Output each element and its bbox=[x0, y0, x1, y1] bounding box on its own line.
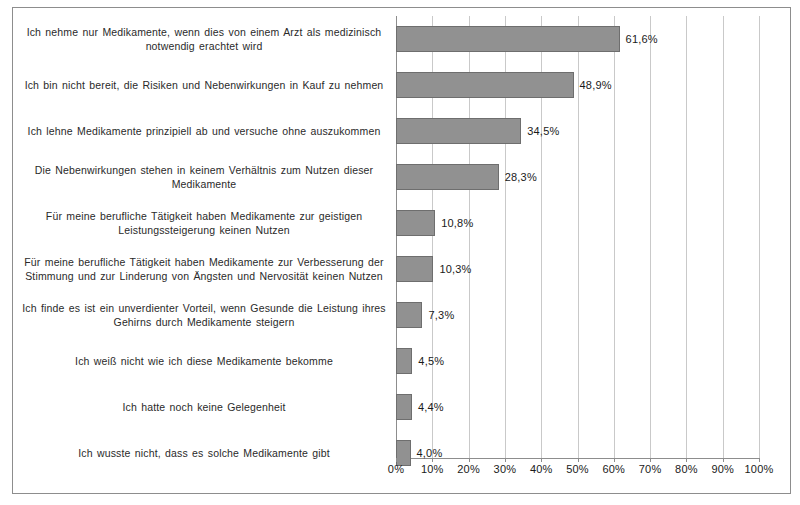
x-tick-label: 40% bbox=[530, 463, 553, 475]
bar-container: 48,9% bbox=[396, 62, 760, 108]
bar-container: 34,5% bbox=[396, 108, 760, 154]
bar bbox=[396, 394, 412, 420]
bar-value-label: 34,5% bbox=[527, 125, 559, 137]
x-tick-mark bbox=[541, 458, 542, 462]
bar-container: 4,5% bbox=[396, 338, 760, 384]
x-tick-label: 90% bbox=[711, 463, 734, 475]
bar-container: 10,3% bbox=[396, 246, 760, 292]
bar-container: 28,3% bbox=[396, 154, 760, 200]
bar-value-label: 10,3% bbox=[439, 263, 471, 275]
x-tick-mark bbox=[686, 458, 687, 462]
category-label: Für meine berufliche Tätigkeit haben Med… bbox=[18, 255, 390, 284]
bar bbox=[396, 26, 620, 52]
bar-value-label: 28,3% bbox=[505, 171, 537, 183]
bar-value-label: 61,6% bbox=[626, 33, 658, 45]
bar-row: Ich finde es ist ein unverdienter Vortei… bbox=[13, 292, 790, 338]
bar-row: Ich weiß nicht wie ich diese Medikamente… bbox=[13, 338, 790, 384]
bar bbox=[396, 256, 433, 282]
x-tick-mark bbox=[505, 458, 506, 462]
x-tick-mark bbox=[723, 458, 724, 462]
category-label: Ich lehne Medikamente prinzipiell ab und… bbox=[18, 124, 390, 139]
bar-container: 10,8% bbox=[396, 200, 760, 246]
x-tick-mark bbox=[469, 458, 470, 462]
bar-rows: Ich nehme nur Medikamente, wenn dies von… bbox=[13, 16, 790, 476]
bar-container: 7,3% bbox=[396, 292, 760, 338]
x-tick-mark bbox=[396, 458, 397, 462]
x-tick-mark bbox=[759, 458, 760, 462]
category-label: Ich bin nicht bereit, die Risiken und Ne… bbox=[18, 78, 390, 93]
bar bbox=[396, 118, 521, 144]
x-tick-mark bbox=[432, 458, 433, 462]
bar bbox=[396, 348, 412, 374]
category-label: Ich nehme nur Medikamente, wenn dies von… bbox=[18, 25, 390, 54]
x-tick-label: 20% bbox=[457, 463, 480, 475]
bar-value-label: 10,8% bbox=[441, 217, 473, 229]
bar-row: Ich nehme nur Medikamente, wenn dies von… bbox=[13, 16, 790, 62]
bar-row: Ich hatte noch keine Gelegenheit4,4% bbox=[13, 384, 790, 430]
x-tick-label: 30% bbox=[494, 463, 517, 475]
x-axis-tick-labels: 0%10%20%30%40%50%60%70%80%90%100% bbox=[13, 463, 790, 483]
category-label: Ich weiß nicht wie ich diese Medikamente… bbox=[18, 354, 390, 369]
bar-value-label: 7,3% bbox=[428, 309, 454, 321]
x-tick-label: 100% bbox=[745, 463, 774, 475]
category-label: Ich hatte noch keine Gelegenheit bbox=[18, 400, 390, 415]
x-tick-label: 10% bbox=[421, 463, 444, 475]
bar-row: Die Nebenwirkungen stehen in keinem Verh… bbox=[13, 154, 790, 200]
bar bbox=[396, 210, 435, 236]
bar-value-label: 4,4% bbox=[418, 401, 444, 413]
x-tick-mark bbox=[614, 458, 615, 462]
bar bbox=[396, 72, 574, 98]
bar-row: Ich bin nicht bereit, die Risiken und Ne… bbox=[13, 62, 790, 108]
bar bbox=[396, 164, 499, 190]
bar bbox=[396, 302, 422, 328]
category-label: Für meine berufliche Tätigkeit haben Med… bbox=[18, 209, 390, 238]
x-tick-mark bbox=[650, 458, 651, 462]
bar-container: 4,4% bbox=[396, 384, 760, 430]
category-label: Die Nebenwirkungen stehen in keinem Verh… bbox=[18, 163, 390, 192]
x-tick-label: 0% bbox=[388, 463, 404, 475]
x-tick-label: 70% bbox=[639, 463, 662, 475]
x-tick-label: 60% bbox=[602, 463, 625, 475]
bar-container: 61,6% bbox=[396, 16, 760, 62]
bar-row: Ich lehne Medikamente prinzipiell ab und… bbox=[13, 108, 790, 154]
x-tick-mark bbox=[578, 458, 579, 462]
chart-frame: Ich nehme nur Medikamente, wenn dies von… bbox=[12, 7, 791, 494]
bar-value-label: 4,5% bbox=[418, 355, 444, 367]
category-label: Ich finde es ist ein unverdienter Vortei… bbox=[18, 301, 390, 330]
bar-value-label: 48,9% bbox=[580, 79, 612, 91]
category-label: Ich wusste nicht, dass es solche Medikam… bbox=[18, 446, 390, 461]
x-tick-label: 50% bbox=[566, 463, 589, 475]
bar-value-label: 4,0% bbox=[417, 447, 443, 459]
bar-row: Für meine berufliche Tätigkeit haben Med… bbox=[13, 246, 790, 292]
x-tick-label: 80% bbox=[675, 463, 698, 475]
bar-row: Für meine berufliche Tätigkeit haben Med… bbox=[13, 200, 790, 246]
